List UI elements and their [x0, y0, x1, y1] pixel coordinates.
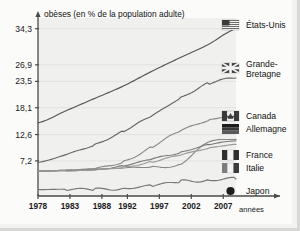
legend-item-france[interactable]: France — [222, 150, 273, 160]
legend-item-canada[interactable]: Canada — [222, 111, 276, 121]
x-tick-label: 1992 — [118, 201, 137, 211]
legend-label-line2: Bretagne — [246, 69, 281, 79]
plot-background — [38, 18, 236, 196]
line-chart: 34,326,923,518,112,67,2 1978198319881992… — [0, 0, 292, 224]
x-tick-label: 1983 — [61, 201, 80, 211]
x-tick-label: 1978 — [29, 201, 48, 211]
chart-title: obèses (en % de la population adulte) — [44, 9, 185, 19]
legend-label: Grande- — [246, 59, 278, 69]
legend-label: Japon — [246, 186, 270, 196]
y-tick-label: 7,2 — [20, 156, 32, 166]
x-tick-label: 1988 — [93, 201, 112, 211]
y-tick-label: 34,3 — [15, 24, 32, 34]
y-tick-label: 23,5 — [15, 76, 32, 86]
legend-label: France — [246, 150, 273, 160]
chart-canvas: 34,326,923,518,112,67,2 1978198319881992… — [0, 0, 292, 224]
flag-united-states-icon — [222, 20, 239, 30]
flag-canada-icon — [222, 111, 239, 121]
screenshot-frame: 34,326,923,518,112,67,2 1978198319881992… — [0, 0, 300, 231]
y-axis-ticks: 34,326,923,518,112,67,2 — [15, 24, 39, 166]
y-tick-label: 12,6 — [15, 130, 32, 140]
legend-item-italie[interactable]: Italie — [222, 163, 264, 173]
legend-label: États-Unis — [246, 20, 286, 30]
legend-item-allemagne[interactable]: Allemagne — [222, 124, 287, 134]
x-tick-label: 1997 — [150, 201, 169, 211]
legend-item-états-unis[interactable]: États-Unis — [222, 20, 286, 30]
y-axis-arrow — [35, 11, 40, 17]
legend-label: Canada — [246, 111, 276, 121]
dot-japan-icon — [226, 187, 234, 195]
flag-italy-icon — [222, 163, 239, 173]
flag-united-kingdom-icon — [222, 63, 239, 73]
flag-france-icon — [222, 150, 239, 160]
x-axis-caption: années — [239, 205, 264, 214]
legend-label: Italie — [246, 163, 264, 173]
x-axis-arrow — [274, 193, 280, 198]
legend-label: Allemagne — [246, 124, 287, 134]
flag-germany-icon — [222, 124, 239, 134]
y-tick-label: 26,9 — [15, 60, 32, 70]
y-tick-label: 18,1 — [15, 103, 32, 113]
x-tick-label: 2007 — [214, 201, 233, 211]
x-tick-label: 2002 — [182, 201, 201, 211]
